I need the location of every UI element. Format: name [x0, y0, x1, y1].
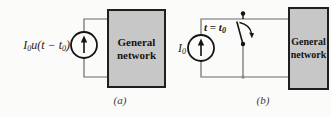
current-source-up-arrow-icon-a — [71, 32, 97, 58]
source-label-b: I0 — [168, 41, 186, 55]
caption-a: (a) — [96, 94, 144, 106]
switch-time-label-pre: t = t — [204, 21, 222, 33]
caption-b: (b) — [239, 94, 287, 106]
opening-switch-icon — [237, 11, 254, 78]
current-source-up-arrow-icon-b — [188, 35, 214, 61]
circuit-diagram-figure: General network General network — [0, 0, 331, 117]
source-label-a-mid: u(t − t — [31, 38, 62, 52]
switch-time-label: t = t0 — [204, 20, 238, 34]
source-label-a-end: ) — [66, 38, 70, 52]
switch-time-label-sub: 0 — [222, 26, 226, 35]
source-label-a: I0u(t − t0) — [2, 38, 70, 52]
source-label-b-base-sub: 0 — [182, 47, 186, 56]
